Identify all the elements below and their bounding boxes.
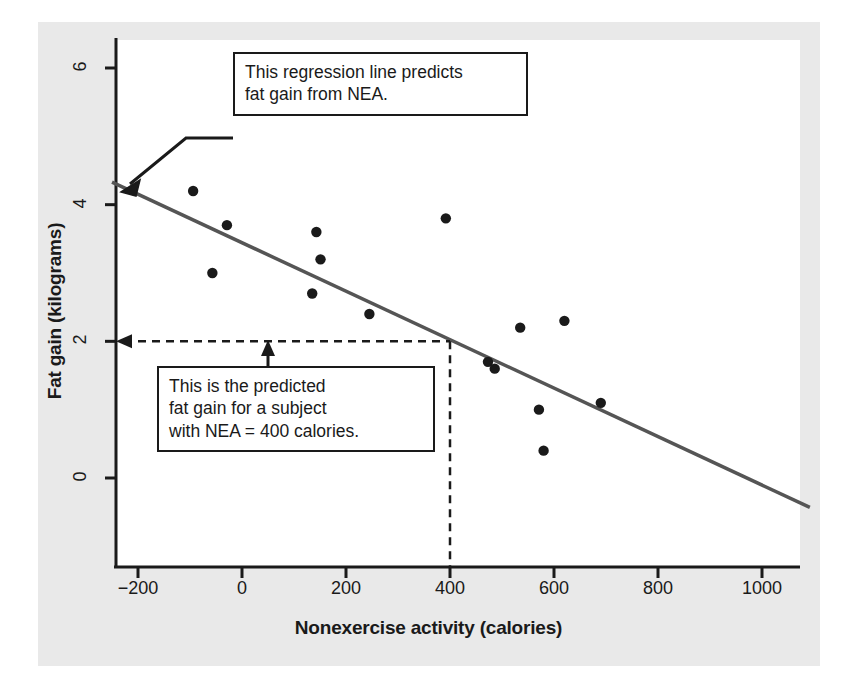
y-axis-ticks — [105, 68, 116, 478]
x-tick-label: 400 — [415, 578, 485, 599]
data-point — [188, 186, 198, 196]
y-tick-label: 4 — [70, 183, 91, 223]
data-point — [559, 316, 569, 326]
x-axis-ticks — [138, 567, 762, 578]
data-point — [364, 309, 374, 319]
data-point — [490, 363, 500, 373]
x-tick-label: 200 — [311, 578, 381, 599]
regression-callout-box: This regression line predicts fat gain f… — [233, 52, 528, 116]
prediction-callout-box: This is the predicted fat gain for a sub… — [157, 366, 435, 452]
x-tick-label: −200 — [103, 578, 173, 599]
data-point — [441, 213, 451, 223]
y-axis-title: Fat gain (kilograms) — [44, 101, 66, 521]
data-point — [315, 254, 325, 264]
data-point — [515, 322, 525, 332]
plot-area — [116, 40, 800, 567]
data-point — [307, 288, 317, 298]
data-point — [222, 220, 232, 230]
y-tick-label: 6 — [70, 47, 91, 87]
y-tick-label: 0 — [70, 457, 91, 497]
data-point — [534, 404, 544, 414]
data-point — [207, 268, 217, 278]
data-point — [596, 398, 606, 408]
x-tick-label: 0 — [207, 578, 277, 599]
x-tick-label: 600 — [519, 578, 589, 599]
data-point — [311, 227, 321, 237]
figure-container: Nonexercise activity (calories) Fat gain… — [0, 0, 857, 688]
y-tick-label: 2 — [70, 320, 91, 360]
x-axis-title: Nonexercise activity (calories) — [0, 617, 857, 639]
x-tick-label: 800 — [623, 578, 693, 599]
data-point — [538, 445, 548, 455]
x-tick-label: 1000 — [727, 578, 797, 599]
